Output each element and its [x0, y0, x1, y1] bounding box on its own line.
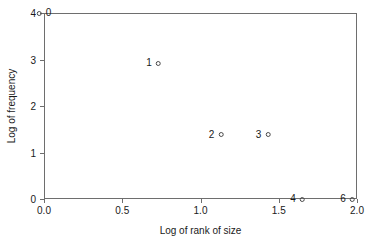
x-tick-label: 0.0 — [37, 205, 51, 216]
data-point: 0 — [37, 8, 52, 18]
y-tick-mark — [40, 199, 44, 200]
data-point: 3 — [256, 130, 271, 140]
data-point-label: 1 — [146, 58, 152, 68]
circle-marker-icon — [350, 197, 355, 202]
data-point: 4 — [290, 194, 305, 204]
data-point: 2 — [209, 130, 224, 140]
x-tick-label: 0.5 — [115, 205, 129, 216]
circle-marker-icon — [37, 11, 42, 16]
data-point: 6 — [340, 194, 355, 204]
x-tick-mark — [279, 199, 280, 203]
circle-marker-icon — [218, 132, 223, 137]
x-tick-mark — [122, 199, 123, 203]
y-tick-label: 2 — [30, 101, 36, 112]
x-tick-mark — [44, 199, 45, 203]
data-point-label: 2 — [209, 130, 215, 140]
y-tick-label: 3 — [30, 54, 36, 65]
x-tick-label: 1.5 — [272, 205, 286, 216]
circle-marker-icon — [300, 197, 305, 202]
data-points-layer: 012346 — [44, 13, 357, 199]
y-tick-label: 0 — [30, 194, 36, 205]
data-point-label: 4 — [290, 194, 296, 204]
x-axis-title: Log of rank of size — [44, 225, 357, 236]
data-point: 1 — [146, 58, 161, 68]
x-tick-label: 2.0 — [350, 205, 364, 216]
data-point-label: 3 — [256, 130, 262, 140]
circle-marker-icon — [265, 132, 270, 137]
y-tick-label: 1 — [30, 147, 36, 158]
data-point-label: 6 — [340, 194, 346, 204]
y-tick-label: 4 — [30, 8, 36, 19]
scatter-plot-figure: 0.00.51.01.52.0 01234 012346 Log of rank… — [0, 0, 371, 251]
x-tick-mark — [201, 199, 202, 203]
x-tick-label: 1.0 — [194, 205, 208, 216]
circle-marker-icon — [156, 61, 161, 66]
y-axis-title: Log of frequency — [6, 69, 17, 144]
data-point-label: 0 — [46, 8, 52, 18]
x-tick-mark — [357, 199, 358, 203]
